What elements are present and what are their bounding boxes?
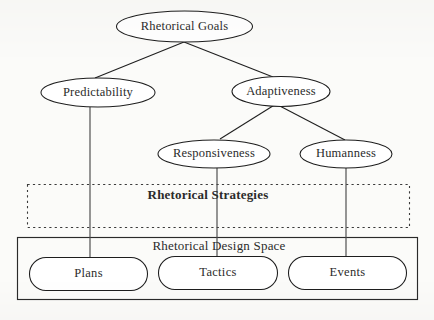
edge-goals-to-adaptiveness bbox=[184, 42, 273, 77]
humanness-label: Humanness bbox=[316, 146, 376, 160]
rhetorical-goals-label: Rhetorical Goals bbox=[141, 19, 229, 33]
node-plans[interactable]: Plans bbox=[30, 258, 148, 291]
node-responsiveness[interactable]: Responsiveness bbox=[158, 140, 270, 168]
predictability-label: Predictability bbox=[63, 85, 134, 99]
rhetorical-strategies-label: Rhetorical Strategies bbox=[148, 187, 269, 202]
node-rhetorical-goals[interactable]: Rhetorical Goals bbox=[117, 11, 253, 42]
node-humanness[interactable]: Humanness bbox=[300, 140, 392, 168]
rhetorical-design-space-label: Rhetorical Design Space bbox=[152, 238, 285, 253]
responsiveness-label: Responsiveness bbox=[173, 146, 255, 160]
events-label: Events bbox=[330, 265, 366, 279]
rhetorical-goals-diagram: Rhetorical Strategies Rhetorical Design … bbox=[0, 0, 434, 320]
adaptiveness-label: Adaptiveness bbox=[246, 84, 316, 98]
edge-adaptiveness-to-responsiveness bbox=[220, 104, 276, 139]
edge-goals-to-predictability bbox=[95, 42, 184, 78]
node-events[interactable]: Events bbox=[289, 257, 407, 290]
edge-adaptiveness-to-humanness bbox=[276, 104, 345, 140]
plans-label: Plans bbox=[74, 266, 103, 280]
tactics-label: Tactics bbox=[199, 265, 236, 279]
node-adaptiveness[interactable]: Adaptiveness bbox=[232, 77, 330, 107]
node-predictability[interactable]: Predictability bbox=[41, 78, 155, 107]
diagram-canvas: Rhetorical Strategies Rhetorical Design … bbox=[0, 0, 434, 320]
node-tactics[interactable]: Tactics bbox=[159, 257, 278, 290]
